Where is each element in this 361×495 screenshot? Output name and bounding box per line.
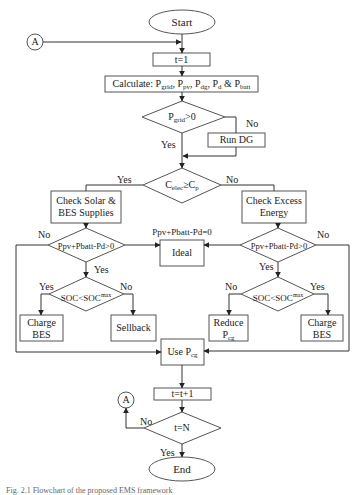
start-label: Start xyxy=(149,16,215,28)
tn-yes-label: Yes xyxy=(160,447,175,459)
left-balance-label: Ppv+Pbatt-Pd>0 xyxy=(50,240,122,252)
calculate-label: Calculate: Pgrid, Ppv, Pdg, Pd & Pbatt xyxy=(105,78,258,93)
check-excess-label-1: Check Excess xyxy=(242,195,306,207)
connector-a-bottom-label: A xyxy=(118,394,134,406)
soc-right-no-label: No xyxy=(225,281,237,293)
reduce-label-1: Reduce xyxy=(209,317,248,329)
soc-right-yes-label: Yes xyxy=(310,281,325,293)
tn-label: t=N xyxy=(160,422,204,434)
check-solar-label-2: BES Supplies xyxy=(51,207,121,219)
grid-no-label: No xyxy=(246,118,258,130)
end-label: End xyxy=(149,463,215,475)
right-no-label: No xyxy=(317,229,329,241)
soc-left-yes-label: Yes xyxy=(39,281,54,293)
right-soc-label: SOC<SOCmax xyxy=(244,289,312,304)
right-yes-label: Yes xyxy=(259,261,274,273)
ideal-label: Ideal xyxy=(160,247,204,259)
right-balance-label: Ppv+Pbatt-Pd>0 xyxy=(243,240,315,252)
grid-yes-label: Yes xyxy=(161,139,176,151)
grid-decision-label: Pgrid>0 xyxy=(150,111,214,126)
run-dg-label: Run DG xyxy=(208,134,265,146)
connector-a-top-label: A xyxy=(27,36,43,48)
celec-yes-label: Yes xyxy=(117,174,132,186)
celec-no-label: No xyxy=(226,174,238,186)
soc-left-no-label: No xyxy=(120,281,132,293)
check-solar-label-1: Check Solar & xyxy=(51,195,121,207)
sellback-label: Sellback xyxy=(111,322,156,334)
check-excess-label-2: Energy xyxy=(242,207,306,219)
charge-bes-left-1: Charge xyxy=(20,317,63,329)
figure-caption: Fig. 2.1 Flowchart of the proposed EMS f… xyxy=(6,486,172,495)
left-yes-label: Yes xyxy=(94,264,109,276)
left-no-label: No xyxy=(38,229,50,241)
charge-bes-right-1: Charge xyxy=(301,317,343,329)
left-soc-label: SOC<SOCmax xyxy=(52,289,120,304)
charge-bes-right-2: BES xyxy=(301,329,343,341)
tn-no-label: No xyxy=(140,416,152,428)
increment-label: t=t+1 xyxy=(154,388,211,400)
reduce-label-2: Pcg xyxy=(209,329,248,344)
celec-decision-label: Celec≥Cp xyxy=(150,179,214,194)
init-label: t=1 xyxy=(153,54,210,66)
use-pcg-label: Use Pcg xyxy=(161,346,204,361)
balance-zero-label: Ppv+Pbatt-Pd=0 xyxy=(142,226,222,238)
charge-bes-left-2: BES xyxy=(20,329,63,341)
